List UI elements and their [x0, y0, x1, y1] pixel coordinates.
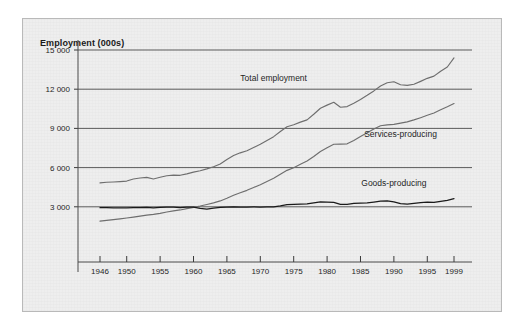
y-tick-label-12000: 12 000: [46, 85, 71, 94]
x-tick-label-1999: 1999: [445, 267, 463, 276]
figure-root: Employment (000s) 3 0006 0009 00012 0001…: [0, 0, 525, 332]
y-tick-label-3000: 3 000: [50, 203, 71, 212]
x-tick-label-1946: 1946: [91, 267, 109, 276]
x-tick-label-1975: 1975: [285, 267, 303, 276]
x-tick-label-1950: 1950: [118, 267, 136, 276]
x-tick-label-1995: 1995: [418, 267, 436, 276]
x-tick-label-1980: 1980: [318, 267, 336, 276]
series-label-goods-producing: Goods-producing: [361, 178, 426, 188]
x-tick-label-1985: 1985: [352, 267, 370, 276]
y-tick-label-9000: 9 000: [50, 124, 71, 133]
x-tick-label-1955: 1955: [151, 267, 169, 276]
line-chart-plot: 3 0006 0009 00012 00015 0001946195019551…: [0, 0, 525, 332]
y-tick-label-6000: 6 000: [50, 164, 71, 173]
series-line-goods-producing: [100, 199, 454, 209]
x-tick-label-1965: 1965: [218, 267, 236, 276]
x-tick-label-1960: 1960: [185, 267, 203, 276]
x-tick-label-1970: 1970: [251, 267, 269, 276]
y-tick-label-15000: 15 000: [46, 46, 71, 55]
series-label-total-employment: Total employment: [240, 73, 307, 83]
x-tick-label-1990: 1990: [385, 267, 403, 276]
series-label-services-producing: Services-producing: [364, 129, 437, 139]
